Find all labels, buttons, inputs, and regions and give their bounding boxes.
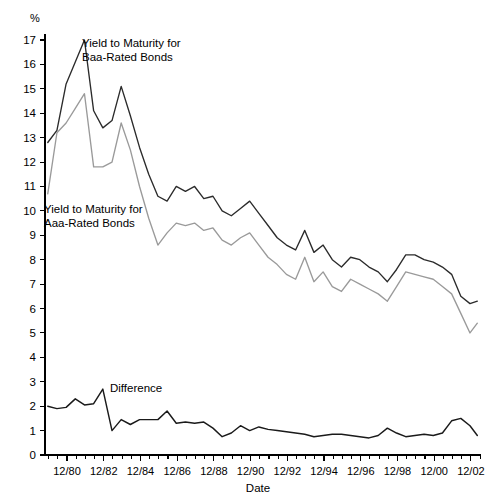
y-axis-tick-label: 2 <box>30 400 36 412</box>
series-lines <box>48 40 478 438</box>
y-axis-tick-label: 4 <box>30 351 37 363</box>
x-axis-tick-label: 12/00 <box>420 465 448 477</box>
y-axis-tick-label: 10 <box>23 205 36 217</box>
x-axis-tick-label: 12/98 <box>384 465 412 477</box>
difference-line <box>48 389 478 438</box>
y-axis-tick-label: 0 <box>30 449 36 461</box>
y-axis-tick-label: 16 <box>23 58 36 70</box>
y-axis-tick-label: 5 <box>30 327 36 339</box>
y-axis: 01234567891011121314151617 <box>23 34 45 461</box>
y-axis-unit-label: % <box>30 12 40 24</box>
y-axis-tick-label: 13 <box>23 132 36 144</box>
x-axis-tick-label: 12/02 <box>457 465 485 477</box>
difference-label: Difference <box>110 382 162 394</box>
baa-yield-line <box>48 40 478 304</box>
x-axis-tick-label: 12/88 <box>200 465 228 477</box>
x-axis: 12/8012/8212/8412/8612/8812/9012/9212/94… <box>45 455 485 477</box>
aaa-label: Yield to Maturity forAaa-Rated Bonds <box>44 203 143 229</box>
y-axis-tick-label: 14 <box>23 107 36 119</box>
chart-container: 01234567891011121314151617 12/8012/8212/… <box>0 0 493 502</box>
x-axis-tick-label: 12/84 <box>127 465 155 477</box>
y-axis-tick-label: 6 <box>30 303 36 315</box>
y-axis-tick-label: 7 <box>30 278 36 290</box>
baa-label: Yield to Maturity forBaa-Rated Bonds <box>82 37 181 63</box>
y-axis-tick-label: 12 <box>23 156 36 168</box>
x-axis-tick-label: 12/96 <box>347 465 375 477</box>
y-axis-tick-label: 3 <box>30 376 36 388</box>
y-axis-tick-label: 11 <box>24 180 36 192</box>
y-axis-tick-label: 15 <box>23 83 36 95</box>
x-axis-title: Date <box>246 482 270 494</box>
x-axis-tick-label: 12/82 <box>90 465 118 477</box>
y-axis-tick-label: 9 <box>30 229 36 241</box>
y-axis-tick-label: 8 <box>30 254 36 266</box>
x-axis-tick-label: 12/92 <box>274 465 302 477</box>
x-axis-tick-label: 12/90 <box>237 465 265 477</box>
y-axis-tick-label: 1 <box>30 425 36 437</box>
y-axis-tick-label: 17 <box>23 34 36 46</box>
x-axis-tick-label: 12/80 <box>53 465 81 477</box>
x-axis-tick-label: 12/86 <box>163 465 191 477</box>
bond-yield-line-chart: 01234567891011121314151617 12/8012/8212/… <box>0 0 493 502</box>
x-axis-tick-label: 12/94 <box>310 465 338 477</box>
